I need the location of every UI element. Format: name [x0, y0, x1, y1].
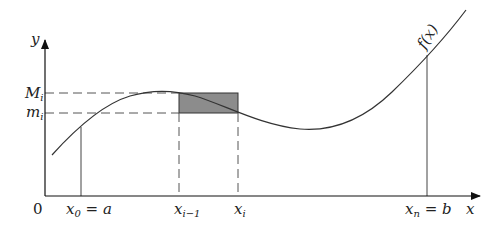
- a-tick-label: x0 = a: [66, 200, 112, 219]
- function-curve: [52, 10, 466, 155]
- curve-label: f(x): [413, 21, 443, 53]
- y-axis-label: y: [30, 30, 40, 48]
- x-axis-label: x: [466, 200, 475, 218]
- b-tick-label: xn = b: [405, 200, 452, 219]
- xi-tick-label: xi: [234, 200, 246, 219]
- riemann-diagram: y x 0 Mi mi x0 = a xi−1 xi xn = b f(x): [0, 0, 504, 227]
- xi-minus-1-tick-label: xi−1: [174, 200, 200, 219]
- shaded-rectangle: [179, 93, 238, 113]
- origin-label: 0: [33, 200, 43, 218]
- upper-bound-label: Mi: [24, 84, 44, 103]
- lower-bound-label: mi: [26, 103, 43, 122]
